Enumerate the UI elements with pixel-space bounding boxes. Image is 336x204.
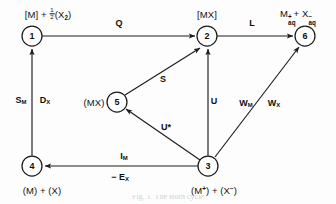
node-1-species-text: [M] +: [25, 9, 50, 20]
node-4-number: 4: [29, 161, 34, 171]
node-6-number: 6: [302, 31, 307, 41]
reaction-cycle-diagram: 1 2 6 5 4 3 [M] + 12(X2) [MX] M+aq + X−a…: [0, 0, 336, 204]
node-2-number: 2: [204, 31, 209, 41]
cation-state-aq: aq: [288, 19, 296, 26]
edge-label-E-X-base: − E: [111, 172, 125, 182]
edge-label-E-X: − EX: [111, 172, 129, 182]
edge-label-W-X: WX: [268, 98, 280, 108]
node-1-number: 1: [29, 31, 34, 41]
edge-label-W-M-sub: M: [248, 102, 253, 108]
edge-label-W-X-base: W: [268, 98, 277, 108]
edge-label-U: U: [211, 96, 218, 106]
node-4-species-label: (M) + (X): [23, 185, 62, 196]
edge-label-W-X-sub: X: [276, 102, 280, 108]
edge-5-to-2-S: [125, 48, 200, 95]
edge-label-I-M-sub: M: [123, 155, 128, 161]
diagram-canvas: [0, 0, 336, 204]
edge-label-U-star: U*: [161, 122, 171, 132]
node-2-species-label: [MX]: [197, 9, 217, 20]
node-3-species-label: (M+) + (X−): [191, 185, 237, 196]
node-5-species-label: (MX): [84, 97, 105, 108]
edge-label-Q: Q: [115, 18, 122, 28]
caption-strip: Fig. 1. The Born cycle: [0, 195, 336, 204]
node-6-species-label: M+aq + X−aq: [280, 8, 314, 19]
node-1-species-text-tail: (X2): [55, 9, 72, 20]
edge-label-S-M-sub: M: [22, 99, 27, 105]
edge-label-E-X-sub: X: [125, 176, 129, 182]
node-6-cation: M: [280, 8, 288, 19]
edge-3-to-6-WM-WX: [215, 47, 299, 157]
node-5-number: 5: [114, 97, 119, 107]
edge-label-S: S: [160, 74, 166, 84]
figure-caption: Fig. 1. The Born cycle: [132, 195, 204, 201]
edge-label-W-M-base: W: [239, 98, 248, 108]
edge-label-S-M: SM: [16, 95, 27, 105]
node-1-species-label: [M] + 12(X2): [25, 7, 72, 20]
edge-label-D-X-sub: X: [46, 99, 50, 105]
edge-label-I-M: IM: [120, 151, 127, 161]
edge-label-D-X: DX: [40, 95, 50, 105]
node-3-number: 3: [205, 161, 210, 171]
node-3-cation: (M+) + (X−): [191, 185, 237, 196]
edge-label-L: L: [249, 18, 255, 28]
anion-state-aq: aq: [308, 19, 316, 26]
edge-label-W-M: WM: [239, 98, 252, 108]
edge-3-to-5-Ustar: [126, 109, 200, 160]
